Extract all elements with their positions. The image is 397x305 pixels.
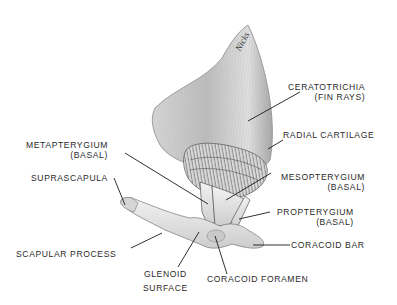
label-propterygium-line2: (BASAL) bbox=[277, 217, 354, 227]
label-mesopterygium: MESOPTERYGIUM (BASAL) bbox=[281, 172, 365, 192]
label-propterygium-line1: PROPTERYGIUM bbox=[277, 207, 354, 217]
label-coracoid-bar: CORACOID BAR bbox=[291, 240, 365, 250]
label-metapterygium-line1: METAPTERYGIUM bbox=[26, 140, 108, 150]
label-coracoid-foramen: CORACOID FORAMEN bbox=[207, 274, 308, 284]
label-radial-cartilage-line1: RADIAL CARTILAGE bbox=[283, 130, 374, 140]
label-radial-cartilage: RADIAL CARTILAGE bbox=[283, 130, 374, 140]
label-coracoid-foramen-line1: CORACOID FORAMEN bbox=[207, 274, 308, 284]
label-mesopterygium-line2: (BASAL) bbox=[281, 182, 365, 192]
label-ceratotrichia-line1: CERATOTRICHIA bbox=[288, 82, 365, 92]
label-propterygium: PROPTERYGIUM (BASAL) bbox=[277, 207, 354, 227]
label-metapterygium: METAPTERYGIUM (BASAL) bbox=[26, 140, 108, 160]
label-glenoid-surface-line1: GLENOID bbox=[143, 269, 188, 279]
label-ceratotrichia: CERATOTRICHIA (FIN RAYS) bbox=[288, 82, 365, 102]
label-scapular-process-line1: SCAPULAR PROCESS bbox=[16, 249, 116, 259]
label-glenoid-surface: GLENOID SURFACE bbox=[143, 269, 188, 293]
label-mesopterygium-line1: MESOPTERYGIUM bbox=[281, 172, 365, 182]
label-metapterygium-line2: (BASAL) bbox=[26, 150, 108, 160]
label-suprascapula-line1: SUPRASCAPULA bbox=[31, 173, 108, 183]
label-suprascapula: SUPRASCAPULA bbox=[31, 173, 108, 183]
label-glenoid-surface-line2: SURFACE bbox=[143, 283, 188, 293]
pectoral-fin-diagram: Nicks bbox=[0, 0, 397, 305]
label-ceratotrichia-line2: (FIN RAYS) bbox=[288, 92, 365, 102]
label-scapular-process: SCAPULAR PROCESS bbox=[16, 249, 116, 259]
label-coracoid-bar-line1: CORACOID BAR bbox=[291, 240, 365, 250]
